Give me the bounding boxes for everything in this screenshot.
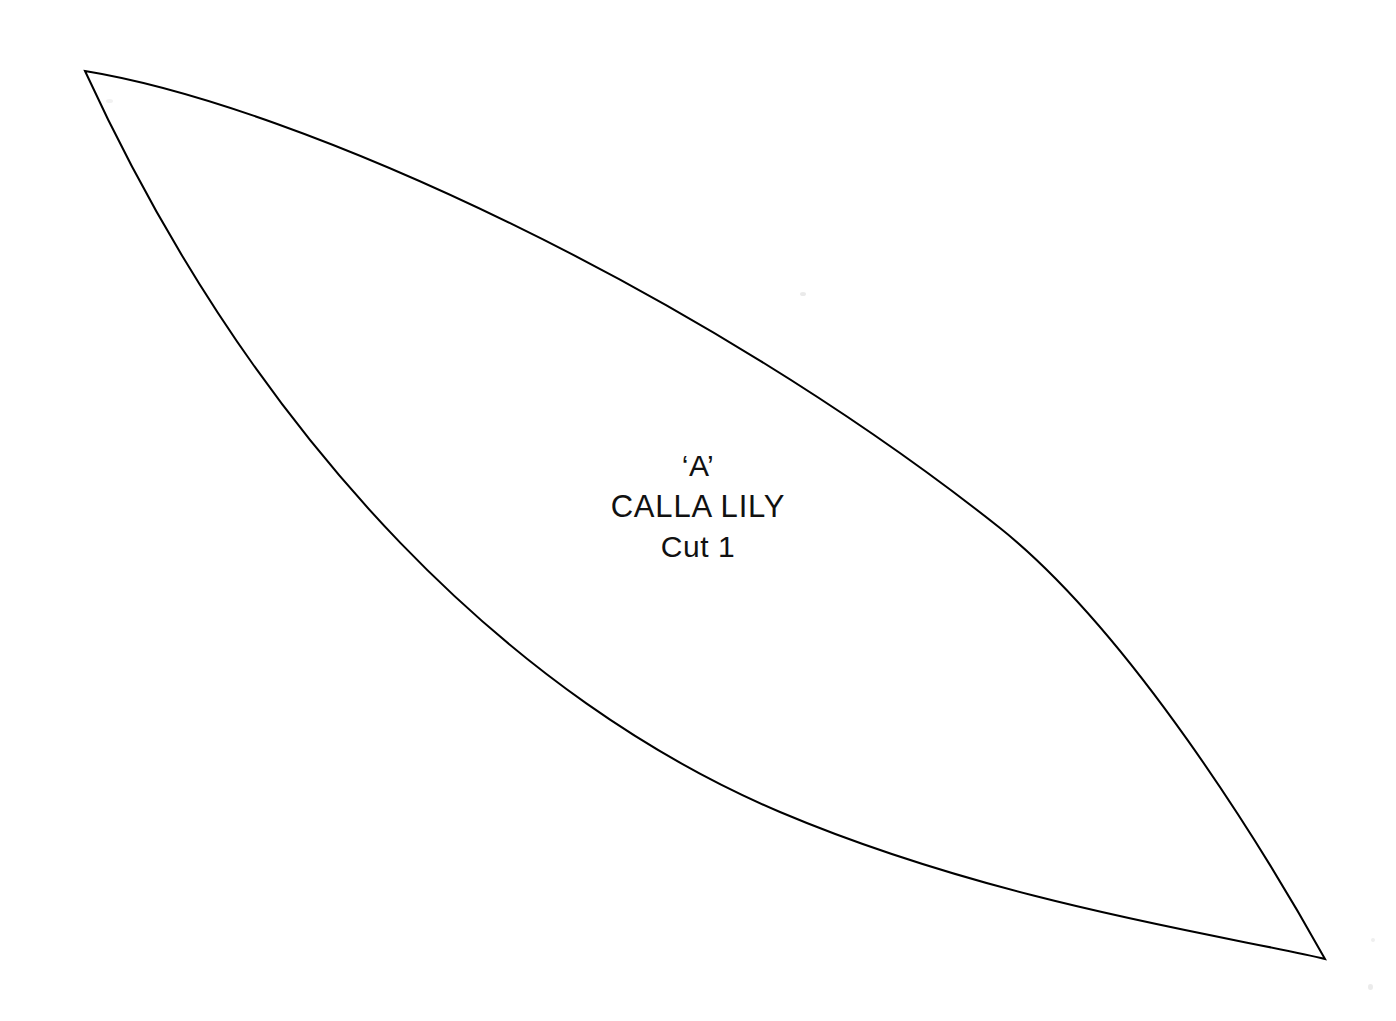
pattern-page: ‘A’ CALLA LILY Cut 1 <box>0 0 1396 1021</box>
pattern-piece-outline <box>0 0 1396 1021</box>
